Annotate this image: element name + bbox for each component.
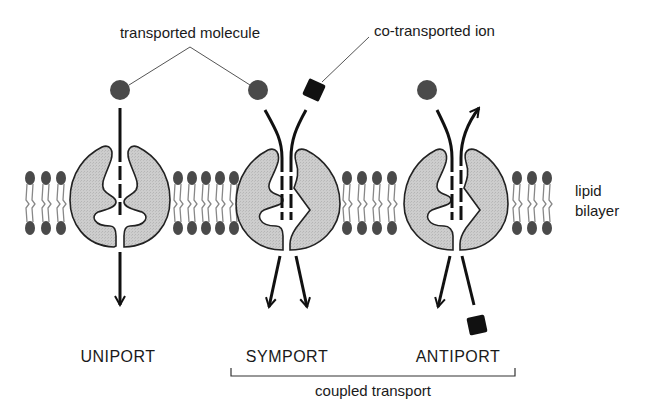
coupled-transport-bracket — [231, 368, 515, 376]
antiport-co-transported-ion — [466, 314, 487, 335]
uniport-transported-molecule — [110, 80, 130, 100]
antiport-transported-molecule — [417, 80, 437, 100]
symport-transported-molecule — [248, 80, 268, 100]
co-transported-ion-label-group: co-transported ion — [322, 22, 495, 82]
symport-label: SYMPORT — [246, 348, 328, 365]
antiport-ion-path-bottom — [462, 256, 474, 305]
lipid-bilayer-label-line2: bilayer — [575, 202, 619, 219]
membrane-transport-diagram: transported molecule co-transported ion … — [0, 0, 656, 404]
antiport-protein-right — [460, 149, 508, 250]
lipid-bilayer-label-line1: lipid — [575, 182, 602, 199]
co-transported-ion-leader-line — [322, 37, 369, 82]
coupled-transport-label: coupled transport — [315, 382, 432, 399]
symport-protein-right — [290, 149, 340, 250]
uniport-protein-left — [70, 146, 116, 247]
transported-molecule-label: transported molecule — [120, 24, 260, 41]
transported-molecule-label-group: transported molecule — [120, 24, 260, 85]
transported-molecule-leader-lines — [129, 47, 250, 85]
uniport-protein-right — [124, 146, 170, 247]
antiport-molecule-arrow-down — [438, 256, 450, 307]
co-transported-ion-label: co-transported ion — [374, 22, 495, 39]
uniport-label: UNIPORT — [80, 348, 155, 365]
symport-molecule-arrow-down — [269, 256, 280, 307]
antiport-transporter — [404, 80, 508, 336]
lipid-bilayer-label: lipid bilayer — [575, 182, 619, 219]
antiport-label: ANTIPORT — [416, 348, 501, 365]
antiport-protein-left — [404, 149, 453, 250]
uniport-transporter — [70, 80, 170, 305]
symport-transporter — [236, 78, 340, 307]
symport-ion-arrow-down — [296, 256, 307, 307]
symport-protein-left — [236, 149, 283, 250]
